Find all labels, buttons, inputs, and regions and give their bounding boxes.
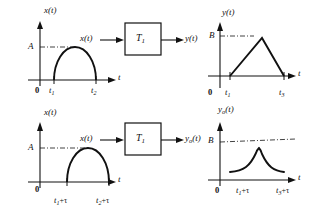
y-axis-arrowhead bbox=[217, 22, 223, 31]
block-input-label: x(t) bbox=[80, 134, 93, 143]
amplitude-reference-line bbox=[220, 139, 296, 142]
output-arrowhead bbox=[176, 137, 184, 143]
y-axis-arrowhead bbox=[217, 122, 223, 131]
origin-label: 0 bbox=[208, 87, 212, 97]
x-axis-arrowhead bbox=[108, 77, 116, 83]
amplitude-label: A bbox=[28, 142, 34, 152]
block-diagram-bottom: x(t) T1 yo(t) bbox=[82, 118, 197, 163]
x-axis-label: t bbox=[298, 172, 301, 182]
tick-label-start: t1+τ bbox=[54, 195, 67, 206]
output-arrowhead bbox=[176, 37, 184, 43]
y-axis-label: yo(t) bbox=[218, 104, 234, 115]
x-axis-label: t bbox=[118, 174, 121, 184]
tick-label-end: t2 bbox=[91, 85, 96, 96]
tick-label-end: t3 bbox=[279, 87, 284, 98]
tick-label-start: t1 bbox=[225, 87, 230, 98]
tick-label-end: t2+τ bbox=[96, 195, 109, 206]
amplitude-label: A bbox=[28, 41, 34, 51]
input-arrowhead bbox=[116, 137, 124, 143]
x-axis-arrowhead bbox=[288, 177, 296, 183]
plot-output-shifted: yo(t) t B 0 t1+τ t3+τ bbox=[192, 106, 322, 206]
system-label: T1 bbox=[136, 32, 145, 45]
x-axis-label: t bbox=[298, 68, 301, 78]
y-axis-label: y(t) bbox=[222, 7, 235, 17]
origin-label: 0 bbox=[35, 184, 39, 194]
block-diagram-top: x(t) T1 y(t) bbox=[82, 18, 192, 63]
block-input-label: x(t) bbox=[80, 34, 93, 43]
waveform-triangle bbox=[230, 38, 284, 76]
amplitude-label: B bbox=[209, 30, 215, 40]
origin-label: 0 bbox=[35, 85, 39, 95]
amplitude-label: B bbox=[208, 135, 214, 145]
plot-output-unshifted: y(t) t B 0 t1 t3 bbox=[196, 6, 321, 101]
tick-label-end: t3+τ bbox=[276, 185, 289, 196]
y-axis-arrowhead bbox=[37, 21, 43, 29]
input-arrowhead bbox=[116, 37, 124, 43]
origin-label: 0 bbox=[215, 185, 219, 195]
tick-label-start: t1+τ bbox=[236, 185, 249, 196]
system-label: T1 bbox=[136, 132, 145, 145]
y-axis-arrowhead bbox=[37, 122, 43, 131]
y-axis-label: x(t) bbox=[44, 5, 57, 15]
waveform-cusp bbox=[230, 148, 284, 172]
y-axis-label: x(t) bbox=[44, 107, 57, 117]
x-axis-label: t bbox=[118, 72, 121, 82]
tick-label-start: t1 bbox=[49, 85, 54, 96]
signal-transformation-figure: x(t) t A 0 t1 t2 x(t) T1 y(t) bbox=[0, 0, 328, 215]
x-axis-arrowhead bbox=[288, 73, 296, 79]
